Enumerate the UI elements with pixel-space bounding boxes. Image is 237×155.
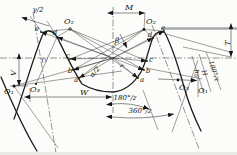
o3-right-marker <box>177 79 180 82</box>
beta-label: β <box>114 36 120 45</box>
gamma-half-label: γ/2 <box>33 6 45 14</box>
gear-diagram-svg: γ/2 O₂ M O₂ β e d d e T V r₁ c b a α/2 r… <box>0 0 237 155</box>
point-c-right-label: c <box>149 56 153 64</box>
gear-diagram-canvas: γ/2 O₂ M O₂ β e d d e T V r₁ c b a α/2 r… <box>0 0 237 155</box>
angular-pitch-360-label: 360°/z <box>129 107 152 115</box>
point-c-left-label: c <box>66 52 70 60</box>
point-a-left-label: a <box>74 76 78 84</box>
angular-pitch-180-label: 180°/z <box>114 94 137 102</box>
angular-pitch-180-right-label: 180°/z <box>207 60 221 83</box>
point-b-right-label: b <box>146 67 151 75</box>
dimension-m <box>113 13 145 29</box>
alpha-half-label: α/2 <box>88 65 102 79</box>
point-d-right-label: d <box>148 31 153 39</box>
o3-right-label: O₃ <box>179 83 189 92</box>
diagram-labels: γ/2 O₂ M O₂ β e d d e T V r₁ c b a α/2 r… <box>4 3 232 115</box>
o2-left-label: O₂ <box>64 17 74 26</box>
point-d-left-label: d <box>53 29 58 37</box>
t-dimension-label: T <box>223 40 232 46</box>
m-dimension-label: M <box>124 3 134 12</box>
addendum-dimension-block <box>166 34 231 94</box>
o2-right-marker <box>143 28 146 31</box>
o2-right-label: O₂ <box>146 17 156 26</box>
scan-edge-shadow <box>0 152 237 155</box>
point-e-left-label: e <box>35 25 39 33</box>
o1-right-label: O₁ <box>198 86 208 95</box>
o1-left-label: O₁ <box>4 87 14 96</box>
point-markers <box>13 28 180 88</box>
v-dimension-label: V <box>9 69 18 76</box>
w-dimension-label: W <box>80 88 89 97</box>
beta-angle-arrow <box>120 34 127 48</box>
point-e-right-label: e <box>161 24 165 32</box>
point-b-left-label: b <box>68 67 73 75</box>
r1-radius-label: r₁ <box>40 55 49 65</box>
o3-left-label: O₃ <box>30 85 40 94</box>
point-a-right-label: a <box>140 76 144 84</box>
